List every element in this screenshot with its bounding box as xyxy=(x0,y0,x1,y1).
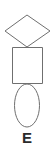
figure-canvas: E xyxy=(0,0,54,152)
ellipse-shape xyxy=(15,84,40,127)
diamond-shape xyxy=(5,15,50,47)
figure-label: E xyxy=(0,129,54,146)
square-shape xyxy=(13,48,43,84)
